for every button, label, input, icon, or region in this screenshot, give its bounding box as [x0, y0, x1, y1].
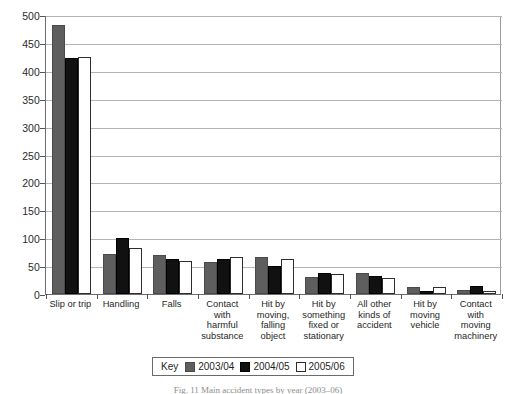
bar: [281, 259, 294, 294]
bar: [65, 58, 78, 294]
bar-group: [350, 15, 401, 294]
chart-legend: Key 2003/042004/052005/06: [152, 357, 354, 376]
x-axis-category-label: Hit by something fixed or stationary: [298, 299, 349, 341]
bar-group: [249, 15, 300, 294]
y-axis-tick-label: 200: [2, 178, 40, 188]
x-axis-category-labels: Slip or tripHandlingFallsContact with ha…: [45, 299, 501, 341]
bar: [483, 291, 496, 294]
legend-item: 2005/06: [296, 361, 345, 372]
y-axis-tick-label: 300: [2, 123, 40, 133]
plot-area: 500450400350300250200150100500 Slip or t…: [0, 0, 516, 300]
x-axis-category-label: Hit by moving vehicle: [400, 299, 451, 341]
x-axis-category-label: Hit by moving, falling object: [248, 299, 299, 341]
y-axis-tick-label: 50: [2, 262, 40, 272]
bar: [78, 57, 91, 294]
bar: [457, 290, 470, 294]
y-axis-tick-label: 150: [2, 206, 40, 216]
bar: [255, 257, 268, 294]
legend-swatch: [296, 362, 306, 372]
bar-group: [198, 15, 249, 294]
x-axis-category-label: Slip or trip: [45, 299, 96, 341]
x-axis-category-label: Handling: [96, 299, 147, 341]
bar: [230, 257, 243, 294]
bar: [470, 286, 483, 294]
bar-group: [46, 15, 97, 294]
bar-group: [451, 15, 502, 294]
bar: [369, 276, 382, 294]
y-axis-tick-mark: [40, 295, 45, 296]
bar: [166, 259, 179, 294]
y-axis-tick-label: 0: [2, 290, 40, 300]
y-axis-tick-label: 400: [2, 67, 40, 77]
x-axis-category-label: Contact with moving machinery: [450, 299, 501, 341]
legend-label: 2003/04: [198, 361, 234, 372]
bar: [305, 277, 318, 294]
legend-label: 2004/05: [253, 361, 289, 372]
legend-item: 2004/05: [240, 361, 289, 372]
y-axis-tick-label: 250: [2, 151, 40, 161]
y-axis-tick-label: 100: [2, 234, 40, 244]
bar: [153, 255, 166, 294]
bar: [433, 287, 446, 294]
bar-groups: [46, 15, 502, 294]
x-axis-category-label: Contact with harmful substance: [197, 299, 248, 341]
bar: [179, 261, 192, 294]
chart-figure: 500450400350300250200150100500 Slip or t…: [0, 0, 516, 394]
bar-group: [401, 15, 452, 294]
bar: [407, 287, 420, 294]
bar: [382, 278, 395, 294]
y-axis-tick-label: 500: [2, 11, 40, 21]
figure-caption: Fig. 11 Main accident types by year (200…: [0, 385, 516, 394]
bar: [268, 266, 281, 294]
bar-group: [299, 15, 350, 294]
legend-label: 2005/06: [309, 361, 345, 372]
bar: [204, 262, 217, 294]
x-axis-category-label: All other kinds of accident: [349, 299, 400, 341]
bar-group: [97, 15, 148, 294]
bar: [52, 25, 65, 295]
bar: [217, 259, 230, 294]
plot-canvas: [45, 16, 501, 295]
legend-swatch: [185, 362, 195, 372]
y-axis: 500450400350300250200150100500: [0, 0, 40, 300]
bar: [129, 248, 142, 294]
legend-item: 2003/04: [185, 361, 234, 372]
bar: [420, 291, 433, 294]
legend-title: Key: [161, 361, 178, 372]
legend-swatch: [240, 362, 250, 372]
bar: [331, 274, 344, 294]
y-axis-tick-label: 350: [2, 95, 40, 105]
bar-group: [147, 15, 198, 294]
x-axis-tick-mark: [502, 294, 503, 299]
x-axis-category-label: Falls: [146, 299, 197, 341]
bar: [116, 238, 129, 294]
bar: [103, 254, 116, 294]
bar: [356, 273, 369, 294]
bar: [318, 273, 331, 294]
y-axis-tick-label: 450: [2, 39, 40, 49]
